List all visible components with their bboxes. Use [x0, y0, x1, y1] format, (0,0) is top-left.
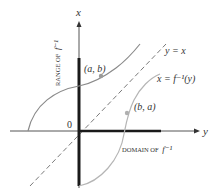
point-ba-label: (b, a) — [134, 101, 156, 113]
inverse-function-diagram: x y 0 y = x x = f⁻¹(y) (a, b) (b, a) DOM… — [0, 0, 218, 191]
identity-line-label: y = x — [164, 45, 186, 56]
point-ba — [125, 111, 129, 115]
domain-label-func: f⁻¹ — [162, 144, 172, 154]
horizontal-axis-label: y — [202, 125, 208, 137]
range-label-func: f⁻¹ — [52, 40, 62, 50]
vertical-axis-label: x — [75, 6, 81, 18]
domain-label: DOMAIN OF f⁻¹ — [122, 144, 173, 154]
point-ab — [99, 74, 103, 78]
origin-label: 0 — [67, 119, 72, 130]
range-label-text: RANGE OF — [54, 53, 61, 86]
range-label: RANGE OF f⁻¹ — [52, 40, 62, 86]
vertical-axis-arrow-icon — [77, 21, 82, 27]
inverse-curve-label: x = f⁻¹(y) — [156, 73, 196, 85]
domain-label-text: DOMAIN OF — [122, 146, 159, 153]
point-ab-label: (a, b) — [84, 63, 106, 75]
curve-f — [28, 44, 140, 131]
horizontal-axis-arrow-icon — [194, 129, 200, 134]
